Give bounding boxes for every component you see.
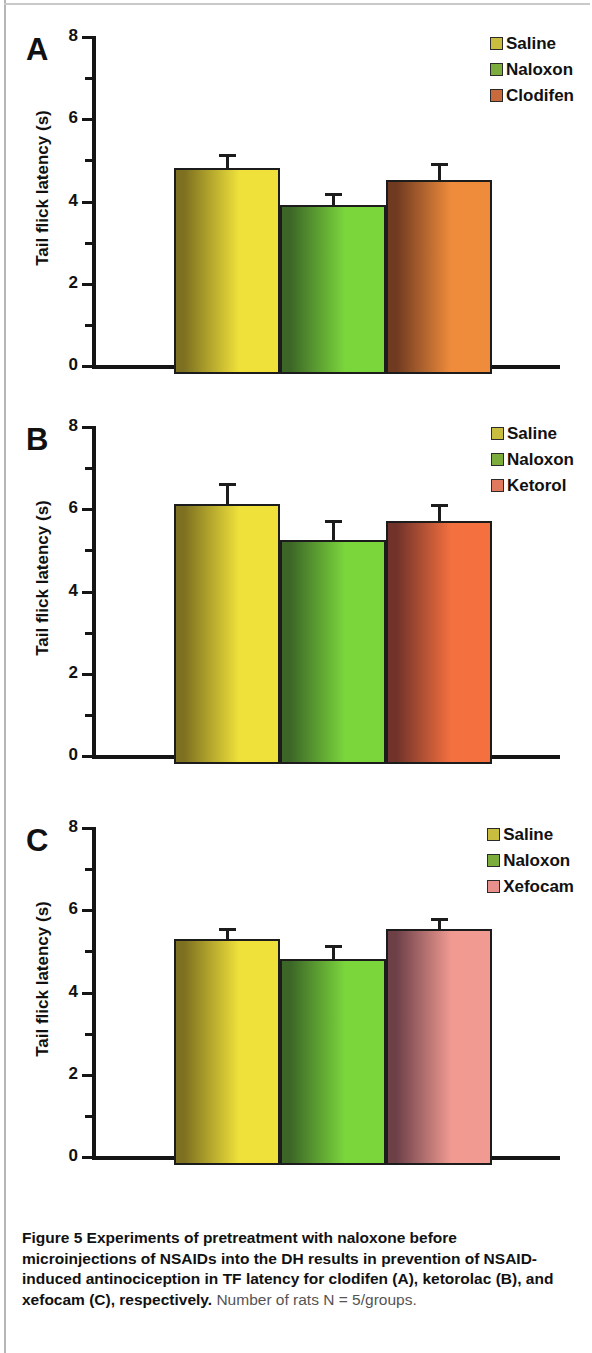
panel-a-legend: SalineNaloxonClodifen [490,32,574,106]
y-tick-major [82,118,92,121]
legend-item: Clodifen [490,84,574,106]
legend-item: Xefocam [487,875,574,897]
panel-c-y-axis-title: Tail flick latency (s) [33,864,53,1094]
panel-b-letter: B [26,422,48,458]
legend-swatch-icon [490,89,503,102]
error-bar-stem [226,157,229,168]
error-bar-stem [438,921,441,929]
legend-label: Xefocam [503,878,574,895]
error-bar-cap [219,483,236,486]
error-bar-cap [431,163,448,166]
y-tick-label: 8 [48,818,78,835]
y-tick-major [82,827,92,830]
error-bar-cap [325,520,342,523]
legend-item: Saline [490,32,574,54]
panel-c-letter: C [26,823,48,859]
bar-saline [174,939,280,1165]
legend-label: Naloxon [503,852,570,869]
legend-label: Saline [506,35,556,52]
y-tick-label: 6 [48,109,78,126]
legend-item: Saline [491,422,574,444]
y-tick-label: 4 [48,983,78,1000]
y-tick-label: 6 [48,499,78,516]
y-tick-label: 8 [48,417,78,434]
y-tick-label: 0 [48,356,78,373]
error-bar-stem [332,523,335,539]
legend-swatch-icon [490,37,503,50]
y-tick-major [82,508,92,511]
y-tick-major [82,1074,92,1077]
y-tick-label: 8 [48,27,78,44]
bar-naloxon [280,959,386,1165]
y-tick-major [82,426,92,429]
y-tick-label: 0 [48,1147,78,1164]
y-tick-major [82,36,92,39]
bar-xefocam [386,929,492,1165]
panel-b: B Tail flick latency (s) 86420 SalineNal… [0,400,592,792]
legend-swatch-icon [487,854,500,867]
bar-saline [174,168,280,374]
y-tick-label: 4 [48,582,78,599]
y-tick-major [82,591,92,594]
y-tick-label: 0 [48,746,78,763]
error-bar-stem [226,931,229,939]
legend-label: Naloxon [506,61,573,78]
y-tick-minor [85,714,92,717]
y-tick-minor [85,1033,92,1036]
panel-b-y-axis-title: Tail flick latency (s) [33,463,53,693]
panel-c-legend: SalineNaloxonXefocam [487,823,574,897]
panel-a-letter: A [26,32,48,68]
legend-swatch-icon [487,828,500,841]
y-tick-minor [85,868,92,871]
legend-label: Saline [507,425,557,442]
legend-item: Naloxon [490,58,574,80]
y-tick-label: 2 [48,664,78,681]
legend-item: Saline [487,823,574,845]
y-tick-minor [85,549,92,552]
panel-b-plot-area: 86420 [92,426,560,768]
y-tick-label: 6 [48,900,78,917]
legend-swatch-icon [491,453,504,466]
y-tick-major [82,992,92,995]
error-bar-stem [332,196,335,206]
panel-b-legend: SalineNaloxonKetorol [491,422,574,496]
legend-swatch-icon [487,880,500,893]
y-tick-major [82,755,92,758]
y-tick-minor [85,632,92,635]
error-bar-stem [438,507,441,520]
y-tick-minor [85,242,92,245]
legend-label: Saline [503,826,553,843]
bar-ketorol [386,521,492,764]
error-bar-cap [431,918,448,921]
error-bar-stem [332,948,335,960]
bar-saline [174,504,280,764]
legend-item: Ketorol [491,474,574,496]
y-tick-major [82,1156,92,1159]
y-tick-minor [85,159,92,162]
y-tick-minor [85,950,92,953]
bar-naloxon [280,540,386,764]
error-bar-cap [431,504,448,507]
legend-label: Ketorol [507,477,567,494]
legend-item: Naloxon [487,849,574,871]
y-tick-major [82,909,92,912]
error-bar-cap [219,154,236,157]
y-tick-major [82,365,92,368]
panel-a: A Tail flick latency (s) 86420 SalineNal… [0,10,592,402]
y-tick-minor [85,324,92,327]
panel-a-y-axis-title: Tail flick latency (s) [33,73,53,303]
y-tick-major [82,673,92,676]
legend-item: Naloxon [491,448,574,470]
legend-swatch-icon [491,427,504,440]
error-bar-cap [325,945,342,948]
legend-swatch-icon [491,479,504,492]
y-tick-label: 4 [48,192,78,209]
y-tick-major [82,201,92,204]
error-bar-stem [226,486,229,504]
figure-5: A Tail flick latency (s) 86420 SalineNal… [0,0,592,1353]
bar-clodifen [386,180,492,374]
legend-label: Clodifen [506,87,574,104]
y-tick-minor [85,1115,92,1118]
caption-tail-text: Number of rats N = 5/groups. [212,1291,417,1308]
bar-naloxon [280,205,386,374]
